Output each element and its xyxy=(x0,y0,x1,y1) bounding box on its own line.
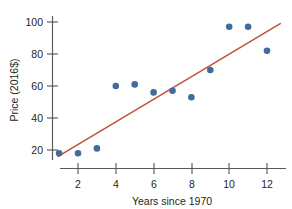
data-point xyxy=(264,48,271,55)
x-tick-label-10: 10 xyxy=(223,178,235,190)
data-point xyxy=(75,150,82,157)
x-axis-title: Years since 1970 xyxy=(132,195,212,207)
x-tick-label-6: 6 xyxy=(151,178,157,190)
data-point xyxy=(56,150,63,157)
y-axis-title: Price (2016$) xyxy=(8,58,20,121)
data-point xyxy=(94,145,101,152)
y-tick-label-20: 20 xyxy=(31,144,43,156)
y-tick-label-80: 80 xyxy=(31,48,43,60)
data-point xyxy=(150,89,157,96)
data-point xyxy=(245,24,252,31)
scatter-point-group xyxy=(56,24,271,157)
y-tick-label-40: 40 xyxy=(31,112,43,124)
data-point xyxy=(188,94,195,101)
data-point xyxy=(169,88,176,95)
x-tick-label-2: 2 xyxy=(75,178,81,190)
data-point xyxy=(131,81,138,88)
data-point xyxy=(207,67,214,74)
data-point xyxy=(226,24,233,31)
x-tick-label-12: 12 xyxy=(261,178,273,190)
regression-trend-line xyxy=(58,24,280,157)
y-tick-label-60: 60 xyxy=(31,80,43,92)
x-tick-label-8: 8 xyxy=(189,178,195,190)
data-point xyxy=(113,83,120,90)
scatter-plot-figure: 100 80 60 40 20 Price (2016$) 2 4 6 8 10… xyxy=(0,0,292,209)
plot-canvas: 100 80 60 40 20 Price (2016$) 2 4 6 8 10… xyxy=(0,0,292,209)
x-tick-label-4: 4 xyxy=(113,178,119,190)
y-tick-label-100: 100 xyxy=(25,16,43,28)
